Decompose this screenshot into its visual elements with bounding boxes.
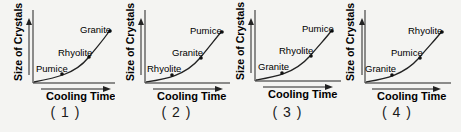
x-axis-label: Cooling Time	[377, 90, 446, 102]
caption: ( 4 )	[339, 104, 455, 120]
label-low: Granite	[258, 61, 289, 72]
y-axis-label: Size of Crystals	[234, 2, 246, 80]
graph-option-1: Pumice Rhyolite Granite Cooling Time Siz…	[0, 0, 115, 132]
label-mid: Granite	[172, 47, 203, 58]
graph-option-4: Granite Pumice Rhyolite Cooling Time Siz…	[345, 0, 461, 132]
label-high: Rhyolite	[408, 25, 442, 36]
label-low: Pumice	[36, 63, 68, 74]
label-low: Granite	[365, 63, 396, 74]
label-mid: Rhyolite	[58, 47, 92, 58]
graph-option-3: Granite Rhyolite Pumice Cooling Time Siz…	[230, 0, 345, 132]
label-mid: Rhyolite	[279, 45, 313, 56]
caption: ( 3 )	[230, 104, 345, 120]
caption: ( 2 )	[119, 104, 234, 120]
y-arrow-icon	[248, 18, 254, 73]
label-high: Pumice	[302, 23, 334, 34]
y-axis-label: Size of Crystals	[12, 3, 24, 81]
label-mid: Pumice	[391, 47, 423, 58]
x-axis-label: Cooling Time	[157, 90, 226, 102]
y-axis-label: Size of Crystals	[345, 3, 356, 81]
y-arrow-icon	[138, 18, 144, 75]
y-arrow-icon	[26, 18, 32, 75]
graph-option-2: Rhyolite Granite Pumice Cooling Time Siz…	[115, 0, 230, 132]
x-axis-label: Cooling Time	[268, 88, 337, 100]
label-high: Pumice	[190, 25, 222, 36]
caption: ( 1 )	[8, 104, 123, 120]
label-high: Granite	[80, 24, 111, 35]
label-low: Rhyolite	[147, 63, 181, 74]
x-axis-label: Cooling Time	[46, 90, 115, 102]
y-axis-label: Size of Crystals	[124, 3, 136, 81]
